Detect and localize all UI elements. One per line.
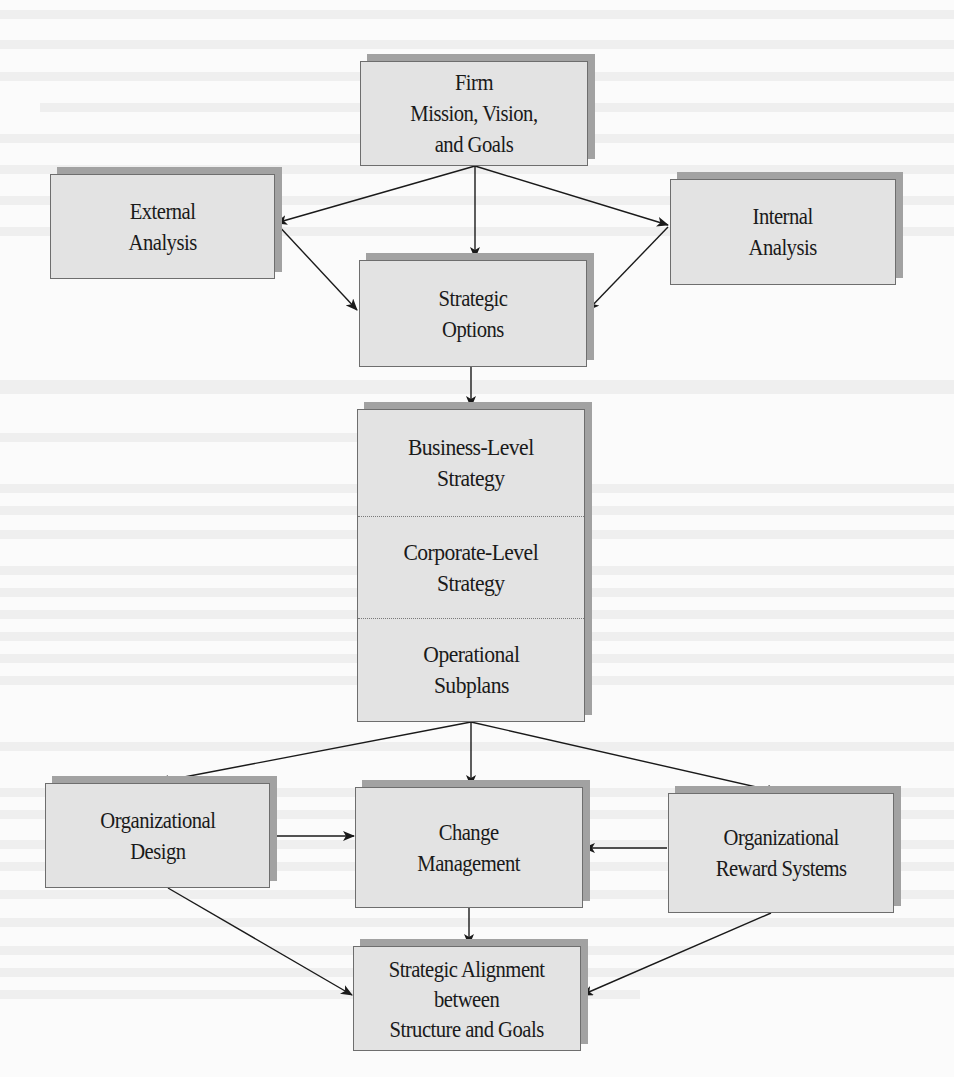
- stack-section-operational-subplans: Operational Subplans: [358, 619, 584, 720]
- node-label: External Analysis: [128, 196, 196, 258]
- section-label: Operational Subplans: [423, 639, 519, 701]
- node-label: Strategic Options: [439, 283, 508, 345]
- arrow-stack-to-reward: [471, 722, 778, 792]
- node-external-analysis: External Analysis: [50, 174, 275, 279]
- stack-section-business-level-strategy: Business-Level Strategy: [358, 410, 584, 516]
- node-label: Organizational Reward Systems: [716, 822, 847, 884]
- node-firm-mission-vision-goals: Firm Mission, Vision, and Goals: [360, 61, 588, 166]
- arrow-org-design-to-alignment: [168, 888, 352, 995]
- node-label: Change Management: [418, 817, 521, 879]
- arrow-mission-to-external: [276, 166, 475, 223]
- stack-section-corporate-level-strategy: Corporate-Level Strategy: [358, 517, 584, 618]
- section-label: Business-Level Strategy: [408, 432, 534, 494]
- arrow-external-to-options: [276, 223, 357, 310]
- node-label: Internal Analysis: [749, 201, 817, 263]
- node-strategic-alignment: Strategic Alignment between Structure an…: [353, 946, 581, 1051]
- section-label: Corporate-Level Strategy: [404, 537, 539, 599]
- arrow-mission-to-internal: [475, 166, 668, 225]
- node-organizational-design: Organizational Design: [45, 783, 270, 888]
- node-organizational-reward-systems: Organizational Reward Systems: [668, 793, 894, 913]
- arrow-stack-to-org-design: [158, 722, 471, 782]
- arrow-reward-to-alignment: [582, 913, 771, 995]
- node-change-management: Change Management: [355, 787, 583, 908]
- node-label: Organizational Design: [100, 805, 215, 867]
- node-label: Strategic Alignment between Structure an…: [389, 954, 545, 1044]
- node-label: Firm Mission, Vision, and Goals: [410, 67, 537, 160]
- arrow-internal-to-options: [588, 227, 668, 310]
- node-strategy-stack: Business-Level Strategy Corporate-Level …: [357, 409, 585, 722]
- node-strategic-options: Strategic Options: [359, 260, 587, 367]
- node-internal-analysis: Internal Analysis: [670, 179, 896, 285]
